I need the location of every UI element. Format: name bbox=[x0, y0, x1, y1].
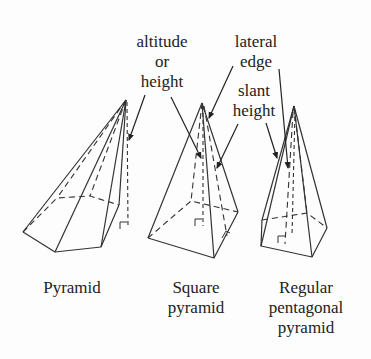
label-lateral-edge: lateral edge bbox=[228, 32, 284, 72]
caption-pyramid-text: Pyramid bbox=[30, 278, 114, 298]
altitude-arrow-2 bbox=[171, 97, 201, 158]
caption-square-line2: pyramid bbox=[160, 298, 232, 318]
pentagonal-pyramid bbox=[261, 106, 327, 257]
caption-pentagonal-line3: pyramid bbox=[260, 318, 352, 338]
caption-pentagonal-line2: pentagonal bbox=[260, 298, 352, 318]
caption-pentagonal-pyramid: Regular pentagonal pyramid bbox=[260, 278, 352, 338]
label-lateral-line2: edge bbox=[228, 52, 284, 72]
label-altitude: altitude or height bbox=[128, 32, 196, 92]
label-lateral-line1: lateral bbox=[228, 32, 284, 52]
label-altitude-line3: height bbox=[128, 72, 196, 92]
caption-square-pyramid: Square pyramid bbox=[160, 278, 232, 318]
slant-height-arrow-2 bbox=[266, 123, 277, 158]
pyramid-diagram: altitude or height lateral edge slant he… bbox=[0, 0, 371, 359]
caption-pyramid: Pyramid bbox=[30, 278, 114, 298]
label-altitude-line1: altitude bbox=[128, 32, 196, 52]
label-slant-height: slant height bbox=[226, 81, 282, 121]
slant-height-arrow-1 bbox=[217, 124, 238, 168]
irregular-pyramid bbox=[23, 100, 128, 252]
square-pyramid bbox=[148, 103, 238, 258]
caption-square-line1: Square bbox=[160, 278, 232, 298]
label-altitude-line2: or bbox=[128, 52, 196, 72]
altitude-arrow-1 bbox=[129, 95, 145, 140]
label-slant-line2: height bbox=[226, 101, 282, 121]
caption-pentagonal-line1: Regular bbox=[260, 278, 352, 298]
label-slant-line1: slant bbox=[226, 81, 282, 101]
